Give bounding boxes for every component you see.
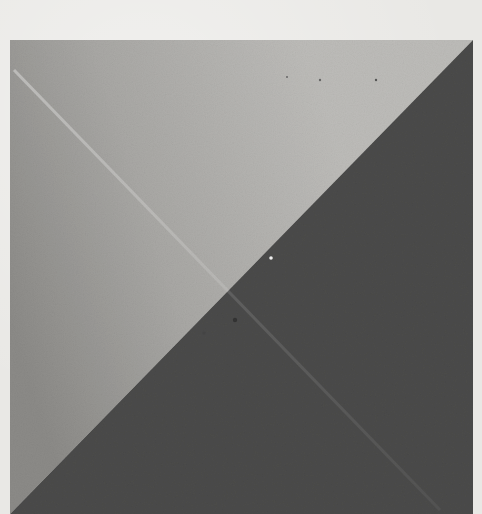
speck [286,76,288,78]
speck [269,256,273,260]
speck [233,318,237,322]
speck [319,79,321,81]
square-graphic [10,40,473,514]
diagonal-split-square [10,40,473,514]
speck [375,79,377,81]
speck [202,331,205,334]
